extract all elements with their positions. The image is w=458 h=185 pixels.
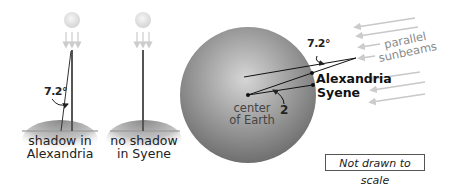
alexandria-label: Alexandria xyxy=(316,72,392,85)
alexandria-angle-label: 7.2° xyxy=(44,86,67,98)
earth-angle-center-label: 2 xyxy=(280,104,288,117)
ground-label-line2: in Syene xyxy=(108,147,180,160)
sunray-arrows xyxy=(66,32,78,45)
not-to-scale-note: Not drawn to scale xyxy=(325,154,425,171)
center-dot xyxy=(246,93,250,97)
syene-ground-label: no shadow in Syene xyxy=(108,134,180,160)
syene-label: Syene xyxy=(317,86,360,99)
sun-icon xyxy=(135,12,151,28)
center-of-earth-label: center of Earth xyxy=(226,102,278,126)
syene-dot xyxy=(311,83,315,87)
sun-icon xyxy=(64,12,80,28)
sunray-arrows xyxy=(137,32,149,45)
alexandria-ground-label: shadow in Alexandria xyxy=(24,134,96,160)
ground-label-line2: Alexandria xyxy=(24,147,96,160)
alexandria-dot xyxy=(310,71,314,75)
angle-arrow xyxy=(52,99,68,105)
angle-arrow-top xyxy=(316,56,324,64)
earth-angle-top-label: 7.2° xyxy=(307,38,330,50)
